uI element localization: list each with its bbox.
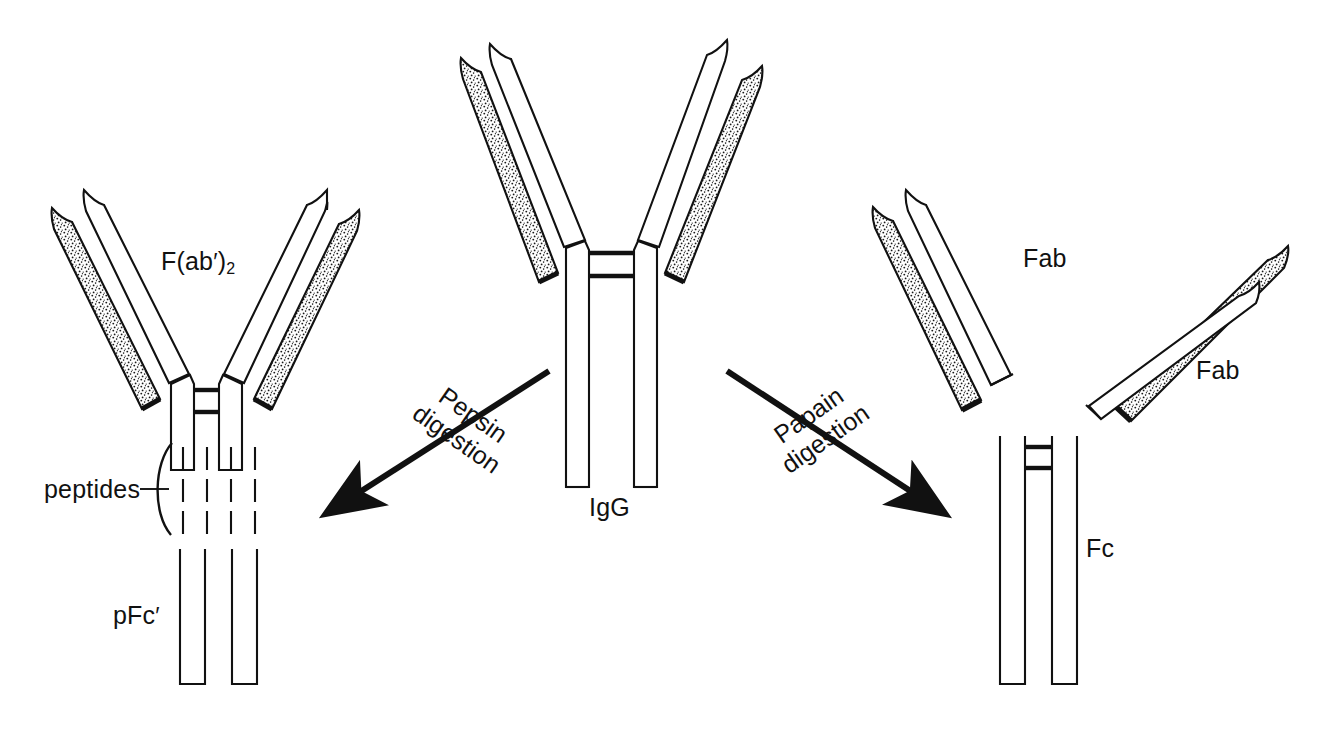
fab-label-2: Fab — [1196, 357, 1240, 383]
fab-fragment-2 — [1086, 246, 1288, 421]
pfc-fragment — [180, 549, 257, 684]
fab-fragment-1 — [873, 190, 1013, 410]
peptides-brace — [140, 443, 172, 535]
fab2-label: F(ab′)2 — [161, 248, 235, 278]
fab2-hinge-disulfide-bonds — [194, 390, 219, 412]
fc-label: Fc — [1086, 535, 1114, 561]
fc-hinge-disulfide-bonds — [1025, 447, 1052, 468]
fab-label-1: Fab — [1023, 245, 1067, 271]
diagram-canvas: F(ab′)2 peptides pFc′ IgG Fab Fab Fc Pep… — [0, 0, 1317, 730]
fab2-fragment — [52, 190, 360, 470]
igg-hinge-disulfide-bonds — [589, 253, 634, 276]
pfc-label: pFc′ — [113, 602, 160, 629]
fc-fragment — [1000, 436, 1077, 684]
antibody-digestion-figure — [0, 0, 1317, 730]
igg-heavy-chain-right-arm — [638, 40, 727, 247]
igg-label: IgG — [589, 494, 630, 520]
peptides-label: peptides — [44, 476, 140, 502]
